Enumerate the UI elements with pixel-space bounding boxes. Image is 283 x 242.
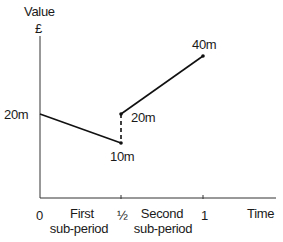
x-tick-label-one: 1 bbox=[201, 209, 208, 222]
x-axis-title: Time bbox=[247, 207, 274, 220]
label-end-value: 40m bbox=[192, 38, 216, 51]
label-half-low-value: 10m bbox=[110, 150, 134, 163]
point-half-low bbox=[119, 141, 123, 145]
region-label-first-line1: First bbox=[52, 207, 112, 220]
region-label-second-line1: Second bbox=[132, 207, 192, 220]
second-subperiod-line bbox=[121, 56, 203, 114]
x-tick-label-half: ½ bbox=[117, 209, 128, 222]
point-half-high bbox=[119, 112, 123, 116]
label-start-value: 20m bbox=[4, 108, 28, 121]
point-end bbox=[201, 54, 205, 58]
y-axis-unit: £ bbox=[35, 22, 42, 35]
region-label-first-line2: sub-period bbox=[49, 222, 109, 235]
first-subperiod-line bbox=[40, 114, 121, 143]
region-label-second-line2: sub-period bbox=[133, 222, 193, 235]
x-tick-label-zero: 0 bbox=[36, 209, 43, 222]
label-half-high-value: 20m bbox=[131, 111, 155, 124]
y-axis-title: Value bbox=[24, 5, 55, 18]
